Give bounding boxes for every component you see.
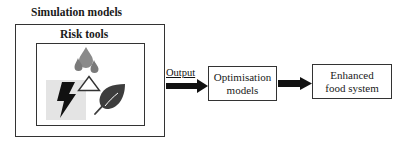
arrow-icon	[278, 77, 312, 91]
enhanced-food-system-box: Enhanced food system	[312, 64, 392, 99]
optimisation-models-box: Optimisation models	[208, 66, 277, 101]
inner-box-title: Risk tools	[60, 28, 108, 40]
leaf-icon	[93, 83, 127, 115]
output-label: Output	[166, 67, 195, 78]
stage-1-line-2: models	[214, 84, 271, 97]
stage-2-line-1: Enhanced	[325, 69, 378, 82]
outer-box-title: Simulation models	[31, 6, 122, 18]
water-drops-icon	[73, 46, 99, 74]
output-arrow-icon	[166, 79, 208, 93]
stage-1-line-1: Optimisation	[214, 71, 271, 84]
stage-2-line-2: food system	[325, 82, 378, 95]
lightning-bolt-icon	[55, 81, 77, 119]
